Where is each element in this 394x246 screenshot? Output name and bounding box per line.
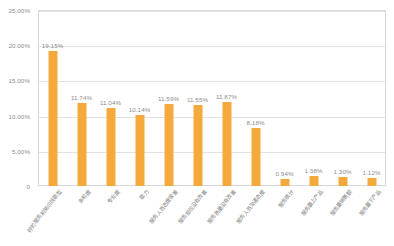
x-tick-label: 服务部位没有改善 — [176, 188, 208, 226]
bar-value-label: 1.12% — [362, 169, 380, 176]
bar-value-label: 0.94% — [275, 170, 293, 177]
bar[interactable] — [338, 177, 347, 186]
x-tick-label: 服务量销售额 — [327, 188, 353, 218]
x-tick-label: 亲和度 — [76, 188, 92, 205]
bar-value-label: 11.74% — [71, 94, 92, 101]
y-axis: 05.00%10.00%15.00%20.00%25.00% — [0, 10, 34, 186]
bars-layer: 19.15%11.74%11.04%10.14%11.59%11.55%11.8… — [38, 10, 386, 186]
x-axis: 好的服务和知识技能型亲和度专业度能力服务人员态度很差服务部位没有改善服务质量没有… — [38, 188, 386, 246]
x-tick-label: 专业度 — [105, 188, 121, 205]
x-tick-label: 服务人员沟通态度 — [234, 188, 266, 226]
bar[interactable] — [367, 178, 376, 186]
bar[interactable] — [251, 128, 260, 186]
bar[interactable] — [164, 104, 173, 186]
bar-group[interactable]: 1.12% — [357, 10, 386, 186]
x-tick-label: 服务质量没有改善 — [205, 188, 237, 226]
y-tick-label: 0 — [26, 183, 30, 190]
x-tick-label: 服务统计 — [276, 188, 295, 209]
bar-group[interactable]: 1.30% — [328, 10, 357, 186]
bar[interactable] — [106, 108, 115, 186]
bar-group[interactable]: 1.38% — [299, 10, 328, 186]
bar-group[interactable]: 19.15% — [38, 10, 67, 186]
bar-value-label: 11.87% — [216, 93, 237, 100]
bar-group[interactable]: 8.18% — [241, 10, 270, 186]
x-tick-label: 好的服务和知识技能型 — [24, 188, 62, 234]
y-tick-label: 10.00% — [8, 112, 30, 119]
bar-value-label: 10.14% — [129, 106, 151, 113]
bar[interactable] — [193, 105, 202, 186]
y-tick-label: 15.00% — [8, 77, 30, 84]
bar[interactable] — [222, 102, 231, 186]
x-tick-label: 服务人员态度很差 — [147, 188, 179, 226]
bar-value-label: 8.18% — [246, 119, 264, 126]
bar-group[interactable]: 11.55% — [183, 10, 212, 186]
x-tick-label: 服务量下产品 — [356, 188, 382, 218]
bar-group[interactable]: 11.59% — [154, 10, 183, 186]
bar-group[interactable]: 10.14% — [125, 10, 154, 186]
bar-group[interactable]: 0.94% — [270, 10, 299, 186]
bar[interactable] — [280, 179, 289, 186]
bar-value-label: 19.15% — [42, 42, 64, 49]
bar-value-label: 11.59% — [158, 95, 179, 102]
bar[interactable] — [309, 176, 318, 186]
bar[interactable] — [77, 103, 86, 186]
y-tick-label: 5.00% — [12, 147, 30, 154]
bar[interactable] — [48, 51, 57, 186]
bar[interactable] — [135, 115, 144, 186]
y-tick-label: 25.00% — [8, 7, 30, 14]
bar-value-label: 1.30% — [333, 168, 351, 175]
bar-group[interactable]: 11.74% — [67, 10, 96, 186]
bar-value-label: 1.38% — [304, 167, 322, 174]
x-tick-label: 能力 — [137, 188, 150, 201]
bar-chart: 05.00%10.00%15.00%20.00%25.00% 19.15%11.… — [0, 0, 394, 246]
bar-group[interactable]: 11.87% — [212, 10, 241, 186]
bar-value-label: 11.04% — [100, 99, 121, 106]
bar-value-label: 11.55% — [187, 96, 208, 103]
bar-group[interactable]: 11.04% — [96, 10, 125, 186]
x-tick-label: 服务量上产品 — [298, 188, 324, 218]
y-tick-label: 20.00% — [8, 42, 30, 49]
